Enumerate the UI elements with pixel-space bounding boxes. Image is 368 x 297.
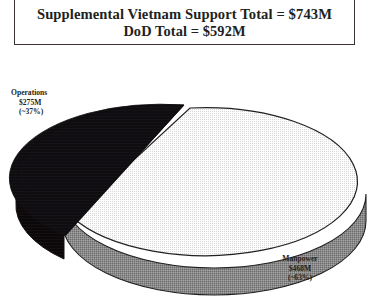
slice-label-manpower: Manpower $468M (~63%)	[256, 254, 344, 283]
manpower-name: Manpower	[256, 254, 344, 264]
title-box: Supplemental Vietnam Support Total = $74…	[14, 0, 355, 45]
manpower-percent: (~63%)	[256, 273, 344, 283]
pie-chart-page: Supplemental Vietnam Support Total = $74…	[0, 0, 368, 297]
operations-name: Operations	[11, 88, 47, 98]
title-line-total: Supplemental Vietnam Support Total = $74…	[37, 6, 332, 23]
operations-amount: $275M	[11, 98, 47, 108]
manpower-amount: $468M	[256, 264, 344, 274]
slice-label-operations: Operations $275M (~37%)	[11, 88, 47, 117]
title-line-dod-total: DoD Total = $592M	[123, 23, 245, 40]
operations-percent: (~37%)	[11, 107, 47, 117]
